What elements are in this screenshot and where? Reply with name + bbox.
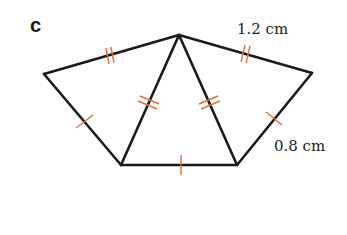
pentagon-diagram: c 1.2 cm 0.8 cm <box>0 0 347 235</box>
edge-right-apex <box>179 35 312 73</box>
measurement-1-2cm: 1.2 cm <box>237 20 288 38</box>
pentagon-outline <box>44 35 312 165</box>
edge-left-bottomleft <box>44 74 121 165</box>
edge-apex-left <box>44 35 179 74</box>
measurement-0-8cm: 0.8 cm <box>274 137 325 155</box>
part-label: c <box>30 14 41 36</box>
double-tick-marks <box>106 45 250 109</box>
diagonals <box>121 35 237 165</box>
single-tick-icon <box>76 115 93 128</box>
